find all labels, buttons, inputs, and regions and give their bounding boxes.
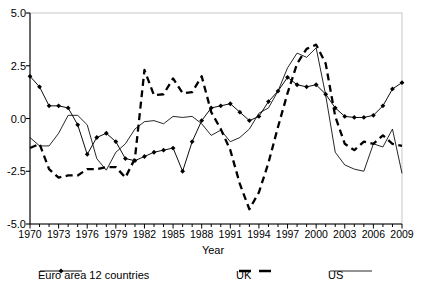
series-marker-euro-area: [47, 103, 52, 108]
legend-item-euro-area[interactable]: Euro area 12 countries: [38, 264, 149, 286]
series-marker-euro-area: [66, 106, 71, 111]
series-marker-euro-area: [123, 156, 128, 161]
y-axis-tick-label: 2.5: [11, 60, 26, 72]
x-axis-tick-label: 1988: [190, 228, 213, 240]
x-axis-tick-label: 1985: [161, 228, 184, 240]
x-axis-tick-label: 1997: [276, 228, 299, 240]
chart-container: 5.02.50.0-2.5-5.0 1970197319761979198219…: [0, 0, 426, 293]
legend-swatch: [328, 264, 374, 278]
legend-swatch: [236, 264, 282, 278]
series-marker-euro-area: [56, 103, 61, 108]
series-marker-euro-area: [94, 135, 99, 140]
x-axis-tick-label: 1976: [76, 228, 99, 240]
series-marker-euro-area: [142, 154, 147, 159]
legend-swatch: [38, 264, 84, 278]
legend-marker: [59, 268, 64, 273]
series-marker-euro-area: [190, 139, 195, 144]
series-marker-euro-area: [75, 122, 80, 127]
x-axis-tick-label: 2006: [362, 228, 385, 240]
y-axis-tick-label: 5.0: [11, 7, 26, 19]
series-marker-euro-area: [218, 103, 223, 108]
series-marker-euro-area: [152, 150, 157, 155]
x-axis-tick-label: 1982: [133, 228, 156, 240]
x-axis-tick-label: 1973: [47, 228, 70, 240]
series-marker-euro-area: [304, 84, 309, 89]
series-marker-euro-area: [361, 115, 366, 120]
series-marker-euro-area: [85, 152, 90, 157]
series-marker-euro-area: [352, 115, 357, 120]
x-axis-tick-label: 1991: [219, 228, 242, 240]
x-axis-tick-label: 1994: [247, 228, 270, 240]
series-marker-euro-area: [180, 169, 185, 174]
series-marker-euro-area: [171, 146, 176, 151]
x-axis-tick-label: 2003: [333, 228, 356, 240]
chart-legend: Euro area 12 countriesUKUS: [0, 264, 426, 288]
series-marker-euro-area: [161, 148, 166, 153]
legend-item-us[interactable]: US: [328, 264, 343, 286]
legend-item-uk[interactable]: UK: [236, 264, 251, 286]
series-marker-euro-area: [257, 114, 262, 119]
x-axis-tick-label: 2009: [390, 228, 413, 240]
x-axis-title: Year: [0, 244, 426, 256]
x-axis-tick-label: 1970: [18, 228, 41, 240]
x-axis-tick-labels: 1970197319761979198219851988199119941997…: [0, 228, 426, 244]
series-line-uk: [30, 45, 402, 210]
y-axis-tick-label: -2.5: [7, 165, 26, 177]
x-axis-tick-label: 1979: [104, 228, 127, 240]
x-axis-tick-label: 2000: [304, 228, 327, 240]
y-axis-tick-label: 0.0: [11, 113, 26, 125]
